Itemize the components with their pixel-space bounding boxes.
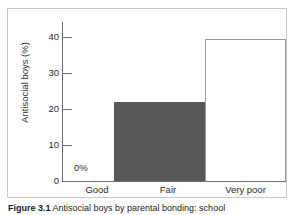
y-axis-tick-10: 10 [63, 145, 72, 146]
y-axis-tick-30: 30 [63, 73, 72, 74]
y-axis-tick-label-20: 20 [48, 103, 59, 114]
bar-value-label-good: 0% [74, 162, 88, 173]
y-axis-title: Antisocial boys (%) [19, 23, 30, 143]
y-axis-tick-40: 40 [63, 37, 72, 38]
y-axis-tick-label-30: 30 [48, 67, 59, 78]
figure-caption: Figure 3.1 Antisocial boys by parental b… [8, 203, 292, 214]
y-axis-tick-label-0: 0 [54, 175, 59, 186]
chart-plot-area: Antisocial boys (%) 0 10 20 30 40 0% [8, 9, 286, 197]
x-axis-tick-label-good: Good [63, 184, 131, 195]
bar-very-poor [205, 39, 286, 182]
y-axis-spine [62, 22, 63, 182]
figure-caption-label: Figure 3.1 [8, 203, 51, 213]
figure-caption-text: Antisocial boys by parental bonding: sch… [53, 203, 226, 213]
y-axis-tick-20: 20 [63, 109, 72, 110]
x-axis-baseline [62, 181, 286, 182]
bar-fair [114, 102, 205, 182]
x-axis-tick-label-fair: Fair [131, 184, 205, 195]
y-axis-tick-label-40: 40 [48, 31, 59, 42]
x-axis-tick-label-very-poor: Very poor [205, 184, 286, 195]
figure-frame: Antisocial boys (%) 0 10 20 30 40 0% [7, 8, 287, 198]
y-axis-tick-label-10: 10 [48, 139, 59, 150]
